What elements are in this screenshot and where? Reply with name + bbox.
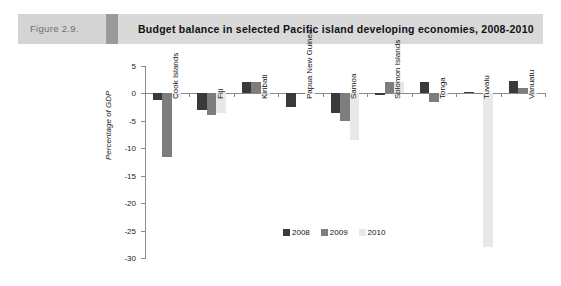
legend-label-2008: 2008 (292, 228, 310, 237)
y-tick-label: -20 (124, 199, 136, 208)
y-tick-label: -25 (124, 226, 136, 235)
legend-swatch-2008 (283, 229, 290, 236)
y-tick-label: -10 (124, 144, 136, 153)
y-tick: -15 (141, 176, 146, 177)
category-label-tonga: Tonga (438, 78, 447, 100)
y-tick: -10 (141, 148, 146, 149)
bar-2009-fiji (207, 93, 216, 115)
bar-2008-tonga (420, 82, 429, 93)
y-tick-label: 0 (132, 89, 136, 98)
category-label-vanuatu: Vanuatu (527, 70, 536, 99)
bar-2008-fiji (197, 93, 206, 109)
legend-item-2010: 2010 (359, 228, 386, 237)
figure-header: Figure 2.9. Budget balance in selected P… (18, 14, 543, 44)
legend-item-2009: 2009 (321, 228, 348, 237)
bar-2008-cook-islands (153, 93, 162, 100)
y-tick: -5 (141, 121, 146, 122)
figure-number: Figure 2.9. (30, 14, 79, 44)
category-label-fiji: Fiji (216, 89, 225, 99)
category-label-cook-islands: Cook Islands (171, 53, 180, 99)
bar-2010-samoa (350, 93, 359, 140)
x-tick (412, 93, 413, 97)
x-tick (189, 93, 190, 97)
category-label-tuvalu: Tuvalu (482, 76, 491, 100)
y-tick: -20 (141, 203, 146, 204)
bar-2009-papua-new-guinea (296, 93, 305, 94)
x-tick (501, 93, 502, 97)
y-tick-label: 5 (132, 62, 136, 71)
x-tick (323, 93, 324, 97)
bar-2008-solomon-islands (375, 93, 384, 95)
legend-label-2010: 2010 (368, 228, 386, 237)
y-tick-label: -15 (124, 171, 136, 180)
x-tick (145, 93, 146, 97)
bar-2008-samoa (331, 93, 340, 112)
x-tick (278, 93, 279, 97)
y-axis-title: Percentage of GDP (104, 146, 113, 160)
chart-legend: 200820092010 (283, 228, 385, 237)
bar-2008-papua-new-guinea (286, 93, 295, 107)
bar-2008-tuvalu (464, 92, 473, 93)
bar-2008-vanuatu (509, 81, 518, 94)
x-tick (545, 93, 546, 97)
bar-2010-tuvalu (483, 93, 492, 247)
bar-2008-kiribati (242, 82, 251, 93)
y-tick: 5 (141, 66, 146, 67)
legend-swatch-2010 (359, 229, 366, 236)
category-label-samoa: Samoa (349, 74, 358, 99)
y-tick-label: -30 (124, 254, 136, 263)
y-tick-label: -5 (129, 116, 136, 125)
y-axis-title-label: Percentage of GDP (104, 91, 113, 160)
category-label-kiribati: Kiribati (260, 75, 269, 99)
x-tick (234, 93, 235, 97)
x-tick (367, 93, 368, 97)
y-tick: -25 (141, 231, 146, 232)
category-label-solomon-islands: Solomon Islands (393, 40, 402, 99)
figure-title: Budget balance in selected Pacific islan… (138, 14, 534, 44)
x-tick (456, 93, 457, 97)
legend-item-2008: 2008 (283, 228, 310, 237)
bar-2009-cook-islands (162, 93, 171, 156)
y-tick: -30 (141, 258, 146, 259)
legend-label-2009: 2009 (330, 228, 348, 237)
legend-swatch-2009 (321, 229, 328, 236)
chart-figure: Percentage of GDP 50-5-10-15-20-25-30 Co… (0, 52, 561, 286)
